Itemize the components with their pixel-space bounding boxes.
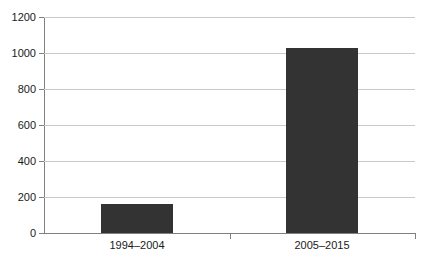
bar	[286, 48, 358, 233]
y-axis-tick-label: 1000	[0, 48, 36, 59]
plot-area	[44, 17, 415, 233]
bar	[101, 204, 173, 233]
y-axis-tick-label: 800	[0, 84, 36, 95]
y-axis-tick-label: 0	[0, 228, 36, 239]
y-axis-tick-label: 200	[0, 192, 36, 203]
x-axis-tick	[230, 233, 231, 239]
x-axis-category-label: 2005–2015	[262, 240, 382, 251]
bar-chart: 020040060080010001200 1994–20042005–2015	[0, 0, 428, 265]
y-axis-tick-label: 1200	[0, 12, 36, 23]
y-axis-tick-label: 600	[0, 120, 36, 131]
y-axis-tick-label: 400	[0, 156, 36, 167]
x-axis-tick	[415, 233, 416, 239]
x-axis-category-label: 1994–2004	[77, 240, 197, 251]
y-axis-tick	[39, 233, 44, 234]
